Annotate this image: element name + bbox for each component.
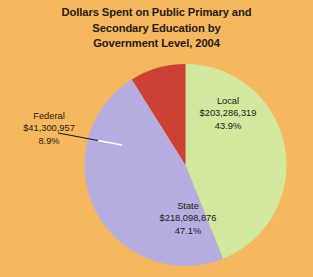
pie-chart-figure: Dollars Spent on Public Primary and Seco… [0, 0, 313, 277]
slice-label-federal-value: $41,300,957 [0, 122, 98, 134]
slice-label-federal-name: Federal [0, 110, 98, 122]
slice-label-local-value: $203,286,319 [178, 107, 278, 119]
slice-label-state: State $218,098,876 47.1% [133, 200, 243, 237]
slice-label-federal: Federal $41,300,957 8.9% [0, 110, 98, 147]
slice-label-state-name: State [133, 200, 243, 212]
slice-label-state-percent: 47.1% [133, 225, 243, 237]
slice-label-federal-percent: 8.9% [0, 135, 98, 147]
slice-label-local-name: Local [178, 95, 278, 107]
slice-label-state-value: $218,098,876 [133, 212, 243, 224]
slice-label-local: Local $203,286,319 43.9% [178, 95, 278, 132]
slice-label-local-percent: 43.9% [178, 120, 278, 132]
